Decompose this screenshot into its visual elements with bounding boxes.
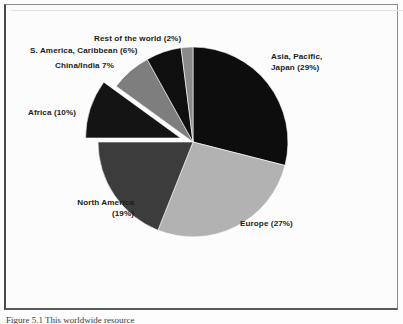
pie-label-china-india: China/India 7% — [55, 61, 114, 72]
pie-label-africa: Africa (10%) — [28, 108, 76, 119]
pie-label-s-america-caribbean: S. America, Caribbean (6%) — [30, 46, 138, 57]
pie-label-rest-of-the-world: Rest of the world (2%) — [94, 34, 181, 45]
pie-label-europe: Europe (27%) — [240, 219, 293, 230]
figure-page: Rest of the world (2%) S. America, Carib… — [0, 0, 403, 324]
pie-chart-plot-area: Rest of the world (2%) S. America, Carib… — [0, 0, 403, 312]
pie-label-asia-pacific-japan: Asia, Pacific, Japan (29%) — [271, 52, 322, 73]
figure-caption: Figure 5.1 This worldwide resource — [6, 315, 396, 324]
pie-label-north-america: North America (19%) — [48, 198, 134, 219]
